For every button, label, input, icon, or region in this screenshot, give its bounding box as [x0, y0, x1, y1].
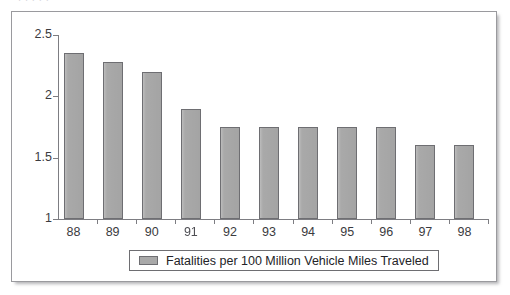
y-tick-label: 1.5	[12, 150, 52, 164]
y-tick-label: 1	[12, 211, 52, 225]
x-tick-label: 98	[444, 225, 484, 239]
bar	[259, 127, 279, 219]
bar	[376, 127, 396, 219]
x-tick-label: 88	[54, 225, 94, 239]
legend-item-label: Fatalities per 100 Million Vehicle Miles…	[166, 254, 429, 268]
y-tick-mark	[53, 158, 59, 159]
x-tick-mark	[332, 219, 333, 224]
bar	[142, 72, 162, 219]
y-axis-line	[58, 35, 59, 220]
cut-off-title-remnant: . . . . .	[18, 0, 318, 3]
x-tick-mark	[136, 219, 137, 224]
bar	[415, 145, 435, 219]
x-tick-label: 94	[288, 225, 328, 239]
x-tick-label: 89	[93, 225, 133, 239]
bar	[298, 127, 318, 219]
bar	[454, 145, 474, 219]
bar	[64, 53, 84, 219]
chart-panel: 11.522.5 8889909192939495969798 Fataliti…	[11, 11, 497, 282]
bar	[181, 109, 201, 219]
x-axis-line	[58, 219, 488, 220]
x-tick-label: 97	[405, 225, 445, 239]
y-tick-label: 2	[12, 88, 52, 102]
x-tick-mark	[214, 219, 215, 224]
bar	[220, 127, 240, 219]
bar	[337, 127, 357, 219]
x-tick-mark	[371, 219, 372, 224]
y-tick-mark	[53, 96, 59, 97]
x-tick-mark	[175, 219, 176, 224]
x-tick-label: 93	[249, 225, 289, 239]
legend-swatch-icon	[139, 256, 158, 265]
x-tick-label: 95	[327, 225, 367, 239]
x-tick-label: 90	[132, 225, 172, 239]
chart-screenshot: . . . . . 11.522.5 888990919293949596979…	[0, 0, 510, 295]
x-tick-mark	[97, 219, 98, 224]
plot-area: 11.522.5 8889909192939495969798	[12, 12, 498, 244]
x-tick-mark	[449, 219, 450, 224]
chart-legend: Fatalities per 100 Million Vehicle Miles…	[129, 250, 439, 271]
x-tick-mark	[410, 219, 411, 224]
y-tick-mark	[53, 219, 59, 220]
x-tick-mark	[293, 219, 294, 224]
x-tick-label: 92	[210, 225, 250, 239]
x-tick-label: 91	[171, 225, 211, 239]
y-tick-mark	[53, 35, 59, 36]
y-tick-label: 2.5	[12, 27, 52, 41]
bar	[103, 62, 123, 219]
x-tick-mark	[253, 219, 254, 224]
x-tick-label: 96	[366, 225, 406, 239]
x-tick-mark	[488, 219, 489, 224]
